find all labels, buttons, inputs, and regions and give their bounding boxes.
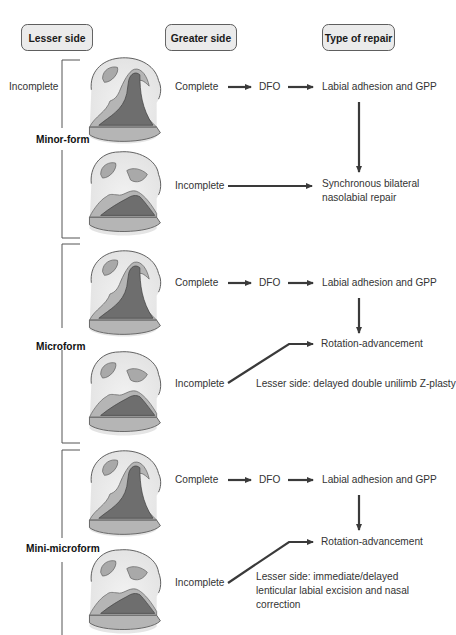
- lesser-side-label: Incomplete: [9, 80, 59, 92]
- greater-side-label: Complete: [175, 473, 218, 485]
- bracket-minor-top: [62, 60, 80, 128]
- greater-side-label: Complete: [175, 80, 218, 92]
- bracket-micro-top: [62, 244, 80, 328]
- bracket-minor-bottom: [62, 150, 80, 238]
- nasolabial-illustration-icon: [82, 246, 166, 342]
- nasolabial-illustration-icon: [82, 146, 166, 240]
- bracket-micro-bottom: [62, 350, 80, 443]
- lesser-side-note: Lesser side: delayed double unilimb Z-pl…: [256, 377, 456, 389]
- intermediate-step: DFO: [259, 276, 280, 288]
- nasolabial-illustration-icon: [82, 446, 166, 542]
- form-label-mini-microform: Mini-microform: [26, 542, 100, 554]
- greater-side-label: Incomplete: [175, 576, 225, 588]
- greater-side-label: Complete: [175, 276, 218, 288]
- repair-label: Labial adhesion and GPP: [322, 80, 437, 92]
- form-label-minor: Minor-form: [36, 133, 89, 145]
- greater-side-label: Incomplete: [175, 377, 225, 389]
- repair-label: Labial adhesion and GPP: [322, 473, 437, 485]
- lesser-side-note: Lesser side: immediate/delayed lenticula…: [256, 569, 440, 611]
- nasolabial-illustration-icon: [82, 544, 166, 635]
- bracket-mini-top: [62, 450, 80, 538]
- intermediate-step: DFO: [259, 80, 280, 92]
- repair-label: Rotation-advancement: [321, 337, 423, 349]
- repair-label: Synchronous bilateral nasolabial repair: [322, 176, 432, 204]
- greater-side-label: Incomplete: [175, 179, 225, 191]
- repair-label: Rotation-advancement: [321, 535, 423, 547]
- nasolabial-illustration-icon: [82, 344, 166, 442]
- nasolabial-illustration-icon: [82, 54, 166, 148]
- form-label-microform: Microform: [36, 340, 85, 352]
- intermediate-step: DFO: [259, 473, 280, 485]
- repair-label: Labial adhesion and GPP: [322, 276, 437, 288]
